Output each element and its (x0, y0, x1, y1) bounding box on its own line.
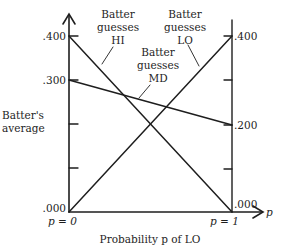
mixed-strategy-diagram: Batter guesses HI Batter guesses MD Batt… (0, 0, 286, 249)
p-equals-1-label: p = 1 (210, 215, 239, 227)
label-md-line1: Batter (141, 46, 176, 58)
label-lo-line3: LO (177, 34, 193, 46)
label-md-line3: MD (148, 72, 167, 84)
label-guess-hi: Batter guesses HI (97, 8, 139, 46)
label-hi-line2: guesses (97, 21, 139, 33)
x-axis-variable-label: p (266, 206, 273, 218)
line-guess-md (69, 80, 232, 125)
left-tick-label-400: .400 (43, 30, 66, 42)
left-tick-label-300: .300 (43, 74, 66, 86)
leader-lo (188, 45, 199, 66)
label-lo-line2: guesses (164, 21, 206, 33)
leader-hi (102, 47, 113, 64)
label-lo-line1: Batter (168, 8, 203, 20)
right-tick-label-400: .400 (234, 30, 257, 42)
label-hi-line3: HI (111, 34, 124, 46)
label-guess-md: Batter guesses MD (137, 46, 179, 84)
label-hi-line1: Batter (101, 8, 136, 20)
right-tick-label-000: .000 (234, 198, 257, 210)
p-equals-0-label: p = 0 (48, 215, 77, 227)
label-md-line2: guesses (137, 59, 179, 71)
y-axis-title-line2: average (2, 122, 45, 134)
x-axis-title: Probability p of LO (100, 233, 201, 245)
label-guess-lo: Batter guesses LO (164, 8, 206, 46)
leader-md (139, 85, 150, 98)
left-tick-label-000: .000 (43, 202, 66, 214)
y-axis-title-line1: Batter's (2, 109, 44, 121)
right-tick-label-200: .200 (234, 119, 257, 131)
